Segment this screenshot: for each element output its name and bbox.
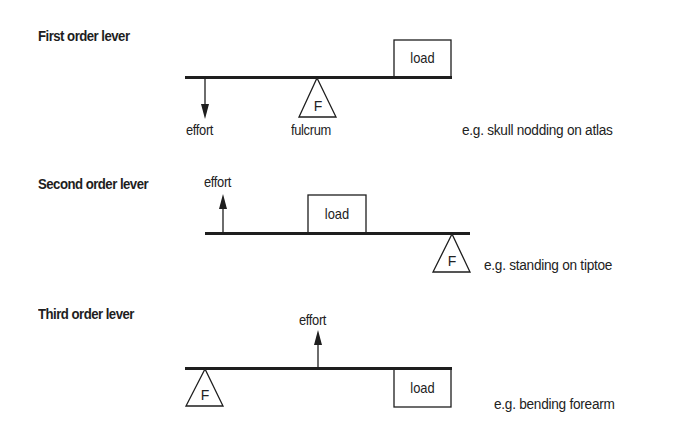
first-lever-effort-arrow-icon <box>201 78 209 119</box>
second-lever-effort-arrow-icon <box>219 194 227 233</box>
first-lever-example: e.g. skull nodding on atlas <box>462 121 613 139</box>
second-lever-fulcrum-symbol: F <box>445 253 459 269</box>
third-lever-example: e.g. bending forearm <box>494 395 615 413</box>
lever-diagram: First order lever load F effort fulcrum … <box>0 0 680 429</box>
second-lever-load-label: load <box>312 205 362 222</box>
third-lever-load-label: load <box>398 379 447 396</box>
second-lever-example: e.g. standing on tiptoe <box>484 256 612 274</box>
first-lever-title: First order lever <box>38 27 130 44</box>
second-lever-title: Second order lever <box>38 175 148 192</box>
first-lever-load-label: load <box>398 49 447 66</box>
third-lever-fulcrum-symbol: F <box>198 387 212 403</box>
third-lever-effort-arrow-icon <box>314 330 322 368</box>
second-lever-effort-label: effort <box>204 173 231 190</box>
third-lever-effort-label: effort <box>299 311 326 328</box>
first-lever-fulcrum-label: fulcrum <box>291 121 331 138</box>
first-lever-effort-label: effort <box>186 121 213 138</box>
third-lever-title: Third order lever <box>38 305 134 322</box>
first-lever-fulcrum-symbol: F <box>311 98 325 114</box>
